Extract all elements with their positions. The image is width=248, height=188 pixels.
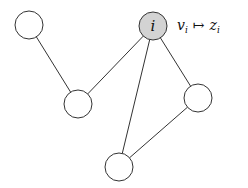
node-n1 xyxy=(15,11,43,39)
edge-n1-n3 xyxy=(36,37,70,92)
edge-n4-n5 xyxy=(130,107,188,158)
node-n3 xyxy=(64,90,92,118)
nodes: i xyxy=(15,11,212,181)
edge-i-n3 xyxy=(88,36,144,94)
node-label: i xyxy=(151,17,156,35)
node-n4 xyxy=(184,84,212,112)
edge-i-n4 xyxy=(160,38,190,86)
edge-i-n5 xyxy=(122,40,149,154)
node-n5 xyxy=(105,153,133,181)
graph-diagram: i vi↦zi xyxy=(0,0,248,188)
edges xyxy=(36,36,190,158)
embedding-annotation: vi↦zi xyxy=(177,17,220,35)
